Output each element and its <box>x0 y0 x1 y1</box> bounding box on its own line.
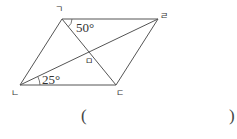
answer-open-paren: ( <box>81 106 87 126</box>
vertex-label-top-right: ㄹ <box>160 11 168 21</box>
vertex-label-bottom-left: ㄴ <box>11 88 19 98</box>
vertex-label-top-left: ㄱ <box>55 4 63 14</box>
answer-blank[interactable] <box>88 106 228 126</box>
angle-label-25: 25° <box>42 72 60 87</box>
angle-arc-50 <box>68 19 72 27</box>
answer-close-paren: ) <box>229 106 235 126</box>
intersection-label: ㅁ <box>85 56 93 66</box>
vertex-label-bottom-right: ㄷ <box>116 88 124 98</box>
angle-label-50: 50° <box>76 20 94 35</box>
angle-arc-25 <box>38 77 40 85</box>
